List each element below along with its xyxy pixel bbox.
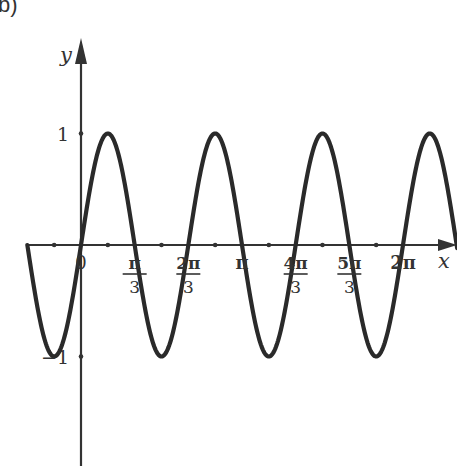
- y-tick-label: −1: [41, 346, 69, 368]
- x-minor-tick: [320, 243, 325, 248]
- y-axis-arrow-icon: [75, 38, 87, 64]
- chart-canvas: 0π32π3π4π35π32π1−1xy: [0, 0, 457, 466]
- x-minor-tick: [267, 243, 272, 248]
- x-minor-tick: [106, 243, 111, 248]
- x-axis-label: x: [438, 249, 450, 273]
- svg-text:5π: 5π: [337, 253, 361, 273]
- svg-text:4π: 4π: [284, 253, 308, 273]
- x-minor-tick: [52, 243, 57, 248]
- svg-text:2π: 2π: [176, 253, 200, 273]
- x-tick-label: 0: [75, 252, 86, 273]
- svg-text:π: π: [235, 252, 248, 273]
- panel-label: b): [0, 0, 18, 18]
- svg-text:π: π: [128, 253, 140, 273]
- y-axis-label: y: [59, 43, 73, 67]
- svg-text:3: 3: [344, 277, 355, 297]
- x-tick-label: 2π: [390, 252, 416, 273]
- y-tick-label: 1: [57, 123, 69, 145]
- svg-text:3: 3: [183, 277, 194, 297]
- x-minor-tick: [213, 243, 218, 248]
- svg-text:3: 3: [129, 277, 140, 297]
- svg-text:0: 0: [75, 252, 86, 273]
- y-tick: [79, 354, 84, 359]
- x-minor-tick: [159, 243, 164, 248]
- svg-text:2π: 2π: [390, 252, 416, 273]
- svg-text:3: 3: [290, 277, 301, 297]
- x-tick-label: π: [235, 252, 248, 273]
- y-tick: [79, 131, 84, 136]
- x-minor-tick: [374, 243, 379, 248]
